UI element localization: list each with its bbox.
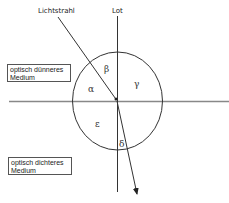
medium-bottom-label: optisch dichteres Medium bbox=[8, 157, 72, 175]
ray-label: Lichtstrahl bbox=[38, 7, 75, 15]
angle-epsilon: ε bbox=[95, 119, 100, 129]
medium-bottom-line2: Medium bbox=[11, 167, 69, 175]
incidence-point bbox=[115, 98, 118, 101]
medium-top-line1: optisch dünneres bbox=[10, 66, 68, 74]
angle-delta: δ bbox=[119, 139, 124, 149]
angle-gamma: γ bbox=[134, 79, 139, 89]
normal-label: Lot bbox=[112, 7, 123, 15]
medium-top-line2: Medium bbox=[10, 74, 68, 82]
medium-bottom-line1: optisch dichteres bbox=[11, 159, 69, 167]
angle-alpha: α bbox=[88, 84, 94, 94]
medium-top-label: optisch dünneres Medium bbox=[7, 64, 71, 82]
angle-beta: β bbox=[104, 64, 109, 74]
